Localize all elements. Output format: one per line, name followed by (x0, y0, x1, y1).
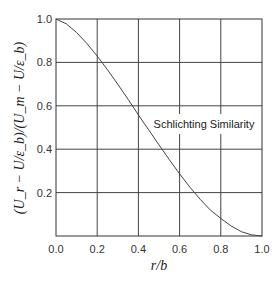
y-tick-label: 0.8 (37, 56, 52, 68)
x-tick-label: 0.2 (90, 243, 105, 255)
y-axis-label: (U_r − U/ε_b)/(U_m − U/ε_b) (12, 42, 28, 215)
x-axis-label: r/b (151, 258, 167, 273)
x-tick-label: 0.4 (131, 243, 146, 255)
x-tick-label: 0.6 (172, 243, 187, 255)
chart: 0.00.20.40.60.81.0 0.20.40.60.81.0 Schli… (0, 0, 279, 286)
x-tick-labels: 0.00.20.40.60.81.0 (48, 243, 269, 255)
annotation-label: Schlichting Similarity (154, 118, 255, 130)
y-tick-label: 0.6 (37, 100, 52, 112)
y-tick-labels: 0.20.40.60.81.0 (37, 13, 52, 199)
y-tick-label: 0.4 (37, 143, 52, 155)
x-tick-label: 1.0 (254, 243, 269, 255)
y-tick-label: 1.0 (37, 13, 52, 25)
x-tick-label: 0.0 (48, 243, 63, 255)
y-tick-label: 0.2 (37, 187, 52, 199)
x-tick-label: 0.8 (213, 243, 228, 255)
